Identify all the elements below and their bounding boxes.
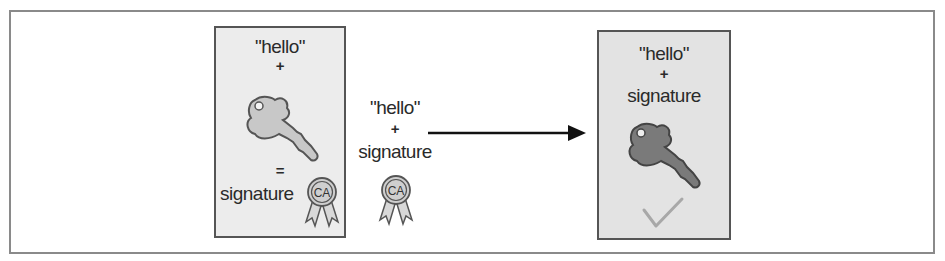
svg-text:CA: CA [314,186,331,200]
ca-badge-icon: CA [302,176,342,228]
right-message-label: "hello" [597,44,731,63]
right-signature-label: signature [597,86,731,105]
left-message-label: "hello" [214,37,346,56]
middle-message-label: "hello" [350,98,440,117]
left-plus-label: + [214,58,346,73]
private-key-icon [245,94,325,166]
right-plus-label: + [597,66,731,81]
svg-text:CA: CA [388,184,405,198]
arrow-right-icon [428,124,588,142]
middle-signature-label: signature [350,142,440,161]
public-key-icon [627,121,707,193]
middle-plus-label: + [350,121,440,136]
checkmark-icon [641,196,685,230]
ca-badge-icon: CA [376,174,416,226]
left-signature-label: signature [220,184,294,203]
